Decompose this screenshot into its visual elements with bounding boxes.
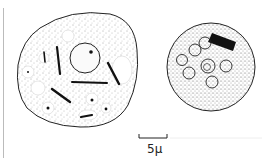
- scale-bar-label: 5μ: [147, 142, 162, 156]
- cell-illustration: [0, 0, 272, 164]
- scale-bar: [139, 134, 262, 138]
- left-cell: [17, 13, 137, 127]
- right-cell: [167, 23, 255, 111]
